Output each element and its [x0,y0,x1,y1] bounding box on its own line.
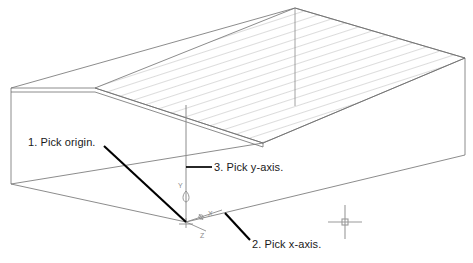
callout-pick-origin: 1. Pick origin. [28,136,96,149]
callout-pick-x-axis: 2. Pick x-axis. [252,238,321,251]
cad-diagram-canvas: 1. Pick origin. 3. Pick y-axis. 2. Pick … [0,0,473,263]
ucs-x-axis-line [186,210,222,222]
ucs-z-label: Z [200,232,204,239]
ucs-icon [179,191,222,231]
wireframe-svg [0,0,473,263]
ucs-x-label: X [208,210,213,217]
ucs-z-axis-line [186,222,206,231]
crosshair-cursor[interactable] [328,205,362,239]
callout-pick-y-axis: 3. Pick y-axis. [214,161,283,174]
ucs-y-label: Y [178,182,183,189]
bottom-left-to-front [11,184,186,222]
leader-xaxis [225,213,250,240]
